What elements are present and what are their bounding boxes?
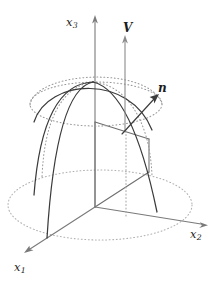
axis-x1	[24, 207, 95, 253]
dome-meridian-front-arc	[34, 88, 152, 130]
vector-label-V: V	[123, 22, 132, 34]
axis-label-x2: x2	[190, 229, 201, 241]
figure-canvas: x3 x2 x1 V n	[0, 0, 219, 283]
axis-label-x3: x3	[66, 17, 77, 29]
dome-meridian-inner-left	[47, 82, 93, 238]
axis-x2	[95, 207, 208, 228]
axis-label-x1: x1	[14, 262, 25, 274]
diagram-svg	[0, 0, 219, 283]
vector-label-n: n	[158, 82, 167, 94]
cutting-plane	[95, 122, 149, 207]
axis-x3	[92, 15, 98, 207]
dome-hidden-meridian-left	[42, 82, 93, 178]
